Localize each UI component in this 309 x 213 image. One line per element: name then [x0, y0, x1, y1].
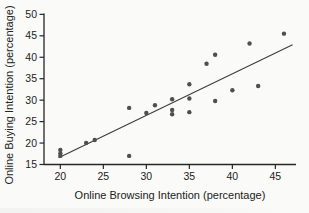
y-tick-label: 25 [25, 115, 37, 127]
y-tick-label: 45 [25, 29, 37, 41]
x-tick-label: 45 [270, 170, 282, 182]
scatter-point [204, 61, 208, 65]
scatter-point [247, 41, 251, 45]
scatter-point [170, 108, 174, 112]
scatter-point [127, 106, 131, 110]
scatter-point [230, 88, 234, 92]
scatter-point [144, 111, 148, 115]
x-tick-label: 30 [141, 170, 153, 182]
scatter-point [58, 148, 62, 152]
x-tick-label: 25 [98, 170, 110, 182]
y-tick-label: 35 [25, 72, 37, 84]
scatter-point [170, 97, 174, 101]
scatter-point [187, 110, 191, 114]
scatter-point [170, 112, 174, 116]
x-axis-title: Online Browsing Intention (percentage) [44, 189, 296, 201]
scan-artifact [0, 208, 309, 213]
scatter-point [213, 52, 217, 56]
x-tick-label: 20 [54, 170, 66, 182]
y-axis-title: Online Buying Intention (percentage) [3, 5, 15, 184]
scatter-point [213, 99, 217, 103]
y-tick-label: 40 [25, 51, 37, 63]
scatter-point [282, 31, 286, 35]
scatter-plot-canvas: 2025303540451520253035404550 [0, 0, 309, 213]
y-tick-label: 50 [25, 8, 37, 20]
scatter-point [84, 141, 88, 145]
scatter-point [127, 154, 131, 158]
scatter-figure: 2025303540451520253035404550 Online Buyi… [0, 0, 309, 213]
y-tick-label: 30 [25, 94, 37, 106]
scatter-point [256, 84, 260, 88]
scatter-point [187, 96, 191, 100]
y-tick-label: 15 [25, 158, 37, 170]
y-tick-label: 20 [25, 137, 37, 149]
x-tick-label: 35 [184, 170, 196, 182]
scatter-point [93, 138, 97, 142]
scatter-point [187, 82, 191, 86]
scatter-point [153, 103, 157, 107]
x-tick-label: 40 [227, 170, 239, 182]
